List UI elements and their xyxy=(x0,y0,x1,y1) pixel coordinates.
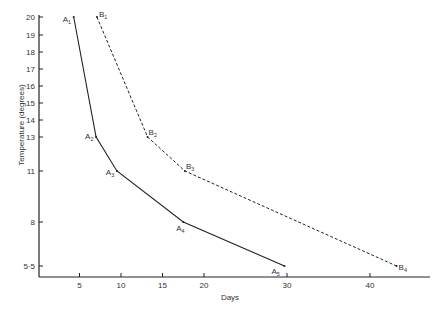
data-point xyxy=(182,221,184,223)
point-label: A1 xyxy=(63,15,71,25)
x-tick-label: 10 xyxy=(117,281,126,290)
x-tick-label: 5 xyxy=(77,281,82,290)
x-tick-label: 20 xyxy=(200,281,209,290)
x-tick-label: 40 xyxy=(366,281,375,290)
point-label: A2 xyxy=(85,132,93,142)
point-label: A5 xyxy=(272,267,280,277)
data-series: A1A2A3A4A5B1B2B3B4 xyxy=(63,10,407,277)
y-tick-label: 15 xyxy=(26,99,35,108)
y-tick-label: 14 xyxy=(26,116,35,125)
x-ticks: 51015203040 xyxy=(77,273,375,290)
y-ticks: 20191817161514131185·5 xyxy=(23,13,43,271)
y-tick-label: 17 xyxy=(26,65,35,74)
point-label: B4 xyxy=(399,263,407,273)
series-line-b xyxy=(97,17,397,266)
y-axis-label: Temperature (degrees) xyxy=(17,84,26,166)
y-tick-label: 5·5 xyxy=(23,262,35,271)
y-tick-label: 20 xyxy=(26,13,35,22)
point-label: B1 xyxy=(99,10,107,20)
data-point xyxy=(284,265,286,267)
data-point xyxy=(95,136,97,138)
data-point xyxy=(96,16,98,18)
y-tick-label: 8 xyxy=(31,218,36,227)
point-label: A3 xyxy=(106,168,114,178)
y-tick-label: 18 xyxy=(26,48,35,57)
y-tick-label: 11 xyxy=(27,167,36,176)
data-point xyxy=(73,16,75,18)
point-label: B2 xyxy=(149,128,157,138)
data-point xyxy=(396,265,398,267)
y-tick-label: 16 xyxy=(26,82,35,91)
data-point xyxy=(116,170,118,172)
axes xyxy=(39,15,430,277)
x-tick-label: 30 xyxy=(283,281,292,290)
y-tick-label: 19 xyxy=(26,31,35,40)
temperature-days-chart: 20191817161514131185·5 51015203040 A1A2A… xyxy=(0,0,439,313)
x-tick-label: 15 xyxy=(158,281,167,290)
point-label: A4 xyxy=(176,224,184,234)
x-axis-label: Days xyxy=(221,293,239,302)
point-label: B3 xyxy=(186,162,194,172)
y-tick-label: 13 xyxy=(26,133,35,142)
